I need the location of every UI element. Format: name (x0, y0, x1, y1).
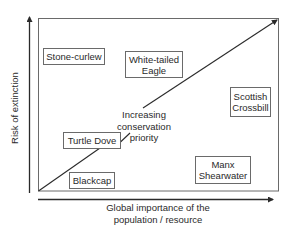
x-axis-label-line2: population / resource (78, 214, 238, 226)
species-label-line1: White-tailed (129, 54, 179, 65)
species-label-line2: Shearwater (199, 170, 248, 181)
species-box-scottish-crossbill: Scottish Crossbill (230, 87, 271, 117)
species-label: Turtle Dove (68, 135, 117, 146)
species-label: Stone-curlew (46, 51, 101, 62)
x-axis-label-line1: Global importance of the (78, 202, 238, 214)
species-box-turtle-dove: Turtle Dove (63, 132, 121, 149)
species-label: Blackcap (73, 175, 112, 186)
species-box-blackcap: Blackcap (69, 172, 115, 189)
priority-arrow-label: Increasing conservation priority (114, 109, 174, 144)
y-axis-label-text: Risk of extinction (9, 72, 20, 144)
species-box-white-tailed-eagle: White-tailed Eagle (125, 51, 183, 78)
species-label-line2: Eagle (129, 65, 179, 76)
species-label-line2: Crossbill (232, 102, 268, 113)
species-label-line1: Manx (199, 159, 248, 170)
x-axis-label: Global importance of the population / re… (78, 202, 238, 225)
priority-label-line3: priority (114, 132, 174, 144)
species-label-line1: Scottish (232, 91, 268, 102)
conservation-priority-diagram: Risk of extinction Global importance of … (0, 0, 294, 231)
species-box-manx-shearwater: Manx Shearwater (195, 156, 251, 184)
priority-label-line2: conservation (114, 121, 174, 133)
priority-label-line1: Increasing (114, 109, 174, 121)
species-box-stone-curlew: Stone-curlew (43, 48, 105, 65)
